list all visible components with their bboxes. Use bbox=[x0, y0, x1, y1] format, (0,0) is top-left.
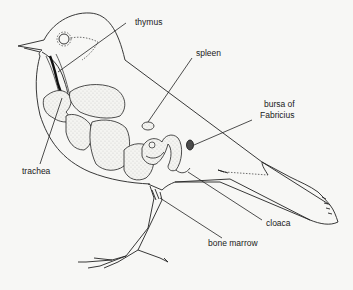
label-trachea: trachea bbox=[22, 166, 51, 176]
label-spleen: spleen bbox=[196, 48, 221, 58]
internal-organs bbox=[43, 85, 193, 180]
leader-bursa bbox=[194, 120, 252, 145]
label-bursa-line2: Fabricius bbox=[260, 110, 294, 120]
organ-heart bbox=[66, 114, 92, 150]
labels: thymus spleen bursa of Fabricius trachea… bbox=[22, 17, 295, 248]
leader-thymus bbox=[58, 23, 126, 72]
leader-bone-marrow bbox=[160, 198, 222, 238]
label-bursa-line1: bursa of bbox=[264, 99, 295, 109]
organ-liver-upper bbox=[69, 85, 124, 119]
label-cloaca: cloaca bbox=[266, 218, 291, 228]
bird-legs bbox=[78, 186, 168, 268]
bird-diagram: thymus spleen bursa of Fabricius trachea… bbox=[0, 0, 353, 290]
eye bbox=[59, 34, 69, 44]
spleen-organ bbox=[142, 122, 154, 130]
label-thymus: thymus bbox=[135, 17, 162, 27]
label-bone-marrow: bone marrow bbox=[208, 238, 258, 248]
bursa-organ bbox=[187, 140, 194, 150]
leader-spleen bbox=[148, 58, 192, 122]
